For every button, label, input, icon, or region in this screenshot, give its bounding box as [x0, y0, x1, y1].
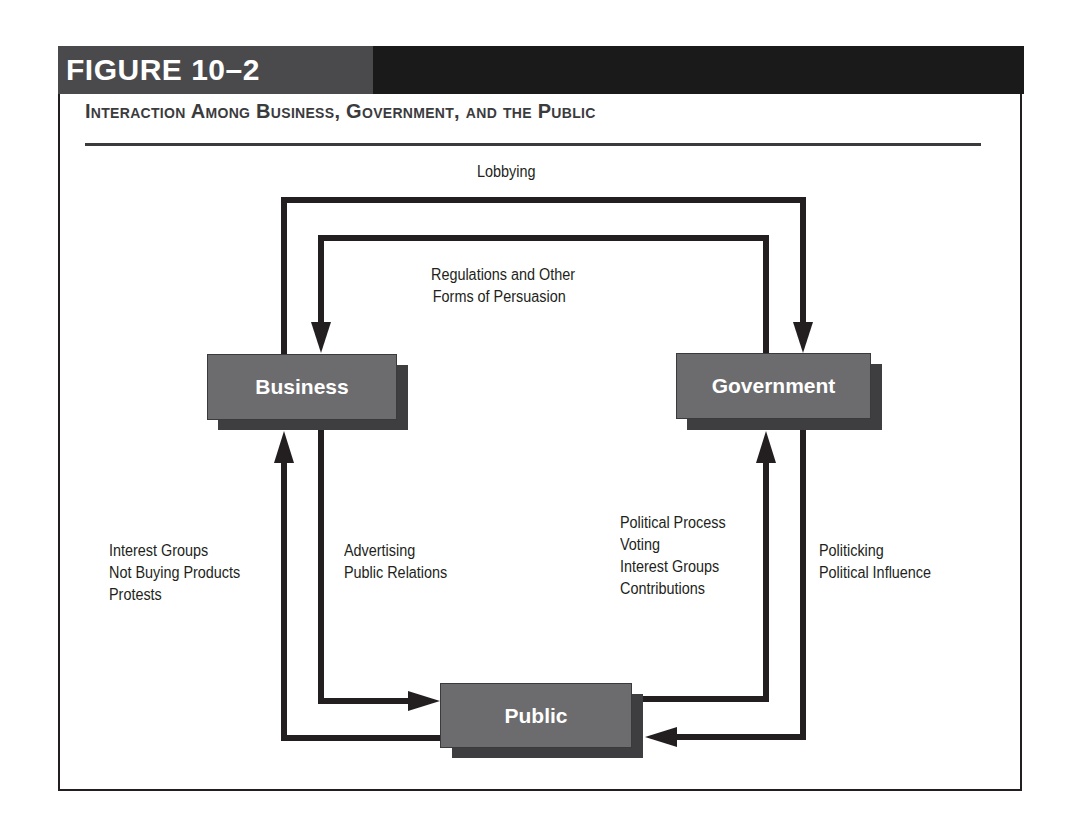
business-node: Business: [207, 354, 397, 420]
government-to-public-line-1: Politicking: [819, 540, 931, 562]
regulations-line-1: Regulations and Other: [431, 264, 575, 286]
public-node: Public: [440, 683, 632, 748]
government-label: Government: [712, 374, 836, 398]
public-label: Public: [504, 704, 567, 728]
public-to-government-line-3: Interest Groups: [620, 556, 726, 578]
regulations-label: Regulations and Other Forms of Persuasio…: [431, 264, 575, 308]
lobbying-text: Lobbying: [477, 161, 535, 183]
arrowhead-up-icon: [756, 431, 776, 463]
public-to-government-line-2: Voting: [620, 534, 726, 556]
business-to-public-line-1: Advertising: [344, 540, 447, 562]
arrowhead-up-icon: [274, 431, 294, 463]
interest-groups-arrow: [274, 431, 440, 738]
public-to-business-line-3: Protests: [109, 584, 240, 606]
public-to-business-line-2: Not Buying Products: [109, 562, 240, 584]
public-to-government-label: Political Process Voting Interest Groups…: [620, 512, 726, 600]
arrowhead-left-icon: [645, 727, 677, 747]
business-to-public-line-2: Public Relations: [344, 562, 447, 584]
arrowhead-right-icon: [408, 691, 440, 711]
government-to-public-line-2: Political Influence: [819, 562, 931, 584]
arrowhead-down-icon: [793, 322, 813, 353]
government-to-public-label: Politicking Political Influence: [819, 540, 931, 584]
government-node: Government: [676, 353, 871, 419]
public-to-government-line-4: Contributions: [620, 578, 726, 600]
business-to-public-label: Advertising Public Relations: [344, 540, 447, 584]
business-label: Business: [255, 375, 348, 399]
arrowhead-down-icon: [311, 322, 331, 353]
lobbying-label: Lobbying: [477, 161, 535, 183]
public-to-business-line-1: Interest Groups: [109, 540, 240, 562]
public-to-business-label: Interest Groups Not Buying Products Prot…: [109, 540, 240, 606]
regulations-line-2: Forms of Persuasion: [431, 286, 575, 308]
public-to-government-line-1: Political Process: [620, 512, 726, 534]
